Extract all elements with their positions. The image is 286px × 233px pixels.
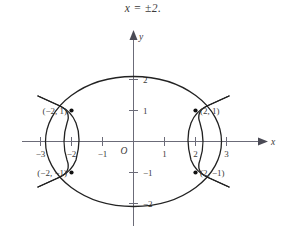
x-axis-label: x — [270, 137, 276, 147]
x-axis-arrow-icon — [258, 138, 268, 146]
y-tick-label-1: 1 — [143, 106, 148, 116]
x-tick-label-2: 2 — [193, 149, 198, 159]
x-tick-label-neg2: −2 — [67, 149, 77, 159]
point-label-upper-right: (2, 1) — [200, 106, 220, 116]
y-axis-label: y — [138, 32, 144, 42]
x-tick-label-1: 1 — [162, 149, 167, 159]
point-marker-lower-left — [69, 170, 73, 174]
x-tick-label-neg3: −3 — [36, 149, 46, 159]
point-marker-upper-left — [69, 108, 73, 112]
equation-caption: x = ±2. — [0, 2, 286, 14]
point-marker-lower-right — [193, 170, 197, 174]
y-tick-label-neg2: −2 — [143, 199, 153, 209]
point-label-upper-left: (−2, 1) — [42, 106, 67, 116]
point-marker-upper-right — [193, 108, 197, 112]
y-axis-arrow-icon — [130, 30, 138, 40]
point-label-lower-right: (2, −1) — [200, 168, 225, 178]
origin-label: O — [121, 146, 128, 156]
x-tick-label-3: 3 — [224, 149, 229, 159]
x-tick-label-neg1: −1 — [98, 149, 108, 159]
point-label-lower-left: (−2, −1) — [37, 168, 67, 178]
axes-group — [22, 30, 268, 226]
coordinate-plot-figure: −3 −2 −1 1 2 3 2 1 −1 −2 x y O — [0, 18, 286, 233]
y-tick-label-neg1: −1 — [143, 168, 153, 178]
